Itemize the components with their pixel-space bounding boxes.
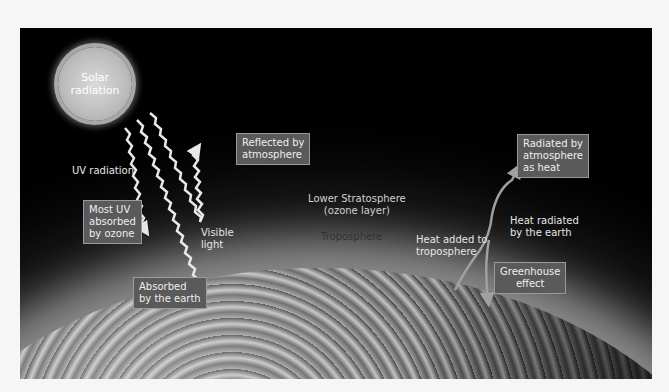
label-line: light — [201, 239, 234, 251]
label-line: Heat added to — [416, 234, 487, 246]
box-line: Most UV — [89, 204, 136, 216]
box-line: absorbed — [89, 216, 136, 228]
most-uv-box: Most UV absorbed by ozone — [83, 200, 142, 244]
sun-icon: Solar radiation — [58, 47, 132, 121]
uv-radiation-label: UV radiation — [72, 165, 134, 177]
box-line: effect — [500, 278, 560, 290]
box-line: Radiated by — [523, 138, 583, 150]
greenhouse-box: Greenhouse effect — [494, 262, 566, 294]
lower-stratosphere-label: Lower Stratosphere (ozone layer) — [308, 193, 406, 217]
absorbed-earth-box: Absorbed by the earth — [133, 277, 207, 309]
label-line: Lower Stratosphere — [308, 193, 406, 205]
label-line: Visible — [201, 227, 234, 239]
box-line: Reflected by — [242, 137, 304, 149]
visible-light-arrow — [137, 120, 199, 286]
sun-label-line2: radiation — [70, 84, 119, 97]
troposphere-label: Troposphere — [321, 231, 382, 243]
label-line: by the earth — [510, 227, 579, 239]
heat-added-label: Heat added to troposphere — [416, 234, 487, 258]
reflected-box: Reflected by atmosphere — [236, 133, 310, 165]
label-line: troposphere — [416, 246, 487, 258]
box-line: by the earth — [139, 293, 201, 305]
label-line: (ozone layer) — [308, 205, 406, 217]
visible-light-label: Visible light — [201, 227, 234, 251]
label-line: Heat radiated — [510, 215, 579, 227]
box-line: atmosphere — [523, 150, 583, 162]
box-line: as heat — [523, 162, 583, 174]
box-line: Absorbed — [139, 281, 201, 293]
box-line: atmosphere — [242, 149, 304, 161]
radiated-atmosphere-box: Radiated by atmosphere as heat — [517, 134, 589, 178]
box-line: by ozone — [89, 228, 136, 240]
box-line: Greenhouse — [500, 266, 560, 278]
sun-label-line1: Solar — [70, 71, 119, 84]
heat-radiated-label: Heat radiated by the earth — [510, 215, 579, 239]
